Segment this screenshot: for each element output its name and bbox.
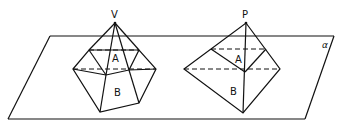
region-label-b-left: B — [114, 87, 121, 98]
apex-label-p: P — [242, 9, 248, 20]
region-label-a-left: A — [112, 53, 119, 64]
right-pyramid — [184, 22, 280, 113]
apex-label-v: V — [111, 9, 118, 20]
plane — [8, 36, 334, 119]
region-label-b-right: B — [230, 86, 237, 97]
geometry-diagram: V A B P A B α — [0, 0, 343, 130]
region-label-a-right: A — [235, 54, 242, 65]
left-pyramid — [73, 22, 156, 112]
plane-label-alpha: α — [322, 40, 328, 50]
